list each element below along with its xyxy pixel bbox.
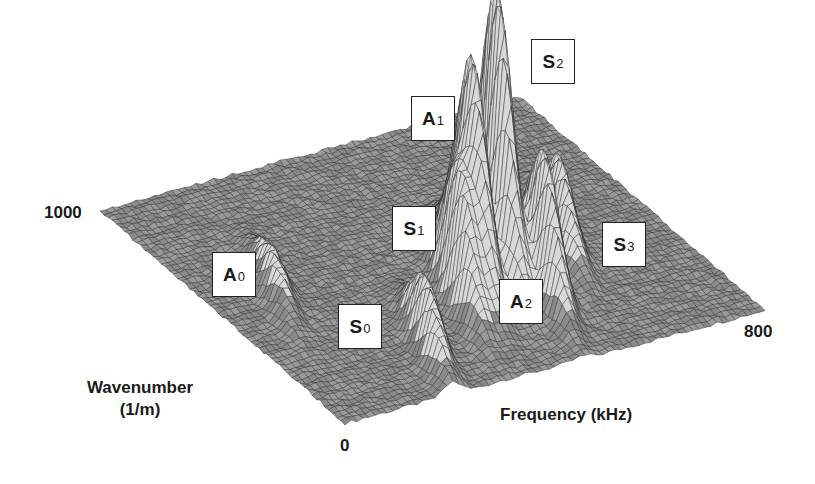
origin-tick: 0 [340,436,349,456]
y-axis-title-line2: (1/m) [60,399,220,421]
mode-label-s2-sub: 2 [556,56,563,71]
mode-label-a0: A0 [212,252,256,297]
mode-label-s1: S1 [392,206,436,251]
mode-label-a0-base: A [223,264,237,286]
mode-label-a1: A1 [411,96,455,141]
mode-label-s1-base: S [404,218,417,240]
mode-label-s3: S3 [602,222,646,267]
mode-label-s2: S2 [531,39,575,84]
mode-label-a1-base: A [422,108,436,130]
mode-label-s2-base: S [543,51,556,73]
y-axis-max-tick: 1000 [44,203,82,223]
y-axis-title: Wavenumber (1/m) [60,377,220,421]
mode-label-s0: S0 [338,304,382,349]
mode-label-a2-base: A [510,291,524,313]
mode-label-a2: A2 [499,279,543,324]
mode-label-s3-sub: 3 [627,239,634,254]
mode-label-a0-sub: 0 [238,269,245,284]
x-axis-title: Frequency (kHz) [500,404,632,426]
mode-label-s3-base: S [614,234,627,256]
mode-label-s1-sub: 1 [417,223,424,238]
y-axis-title-line1: Wavenumber [60,377,220,399]
mode-label-a1-sub: 1 [437,113,444,128]
mode-label-s0-base: S [350,316,363,338]
x-axis-max-tick: 800 [744,322,772,342]
mode-label-a2-sub: 2 [525,296,532,311]
mode-label-s0-sub: 0 [363,321,370,336]
